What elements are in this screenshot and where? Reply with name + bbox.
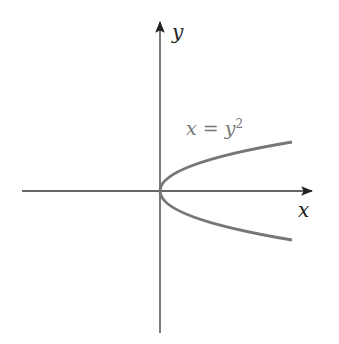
- equation-lhs: x: [186, 117, 197, 139]
- equation-rhs-base: y: [225, 117, 236, 139]
- graph-svg: [0, 0, 339, 344]
- diagram-canvas: y x x = y2: [0, 0, 339, 344]
- curve-equation-label: x = y2: [186, 117, 243, 139]
- equation-equals: =: [203, 117, 219, 139]
- x-axis-label: x: [298, 198, 309, 222]
- equation-exponent: 2: [235, 117, 243, 131]
- y-axis-label: y: [172, 20, 183, 44]
